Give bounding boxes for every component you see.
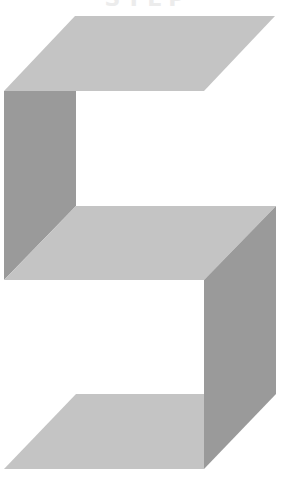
isometric-s-glyph [0,0,295,484]
top-face [4,16,275,91]
bottom-face [4,394,204,469]
